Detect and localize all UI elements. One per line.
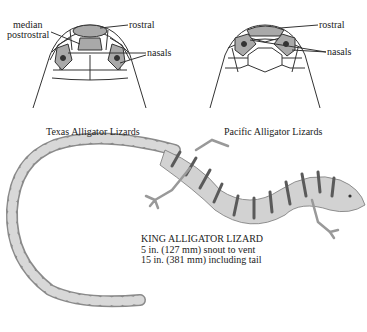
label-nasals-texas: nasals <box>147 48 171 58</box>
label-rostral-texas: rostral <box>129 20 155 30</box>
pacific-head-diagram <box>210 25 326 108</box>
label-rostral-pacific: rostral <box>319 20 345 30</box>
caption-pacific: Pacific Alligator Lizards <box>224 126 322 137</box>
lizard-total-length: 15 in. (381 mm) including tail <box>141 255 263 266</box>
lizard-info: KING ALLIGATOR LIZARD 5 in. (127 mm) sno… <box>141 234 263 266</box>
caption-texas: Texas Alligator Lizards <box>46 126 140 137</box>
illustration-canvas <box>0 0 367 332</box>
label-nasals-pacific: nasals <box>327 47 351 57</box>
texas-head-diagram <box>33 25 146 108</box>
lizard-name: KING ALLIGATOR LIZARD <box>141 234 263 245</box>
lizard-illustration <box>12 139 365 302</box>
label-postrostral: postrostral <box>7 30 49 40</box>
